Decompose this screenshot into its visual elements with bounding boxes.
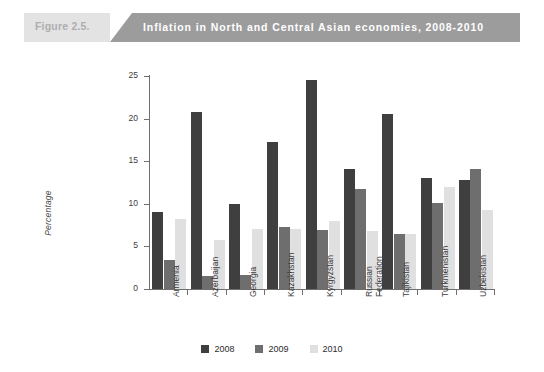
x-axis-category-label: Georgia	[249, 267, 259, 297]
y-axis-line	[149, 75, 150, 290]
legend-label: 2010	[323, 344, 343, 354]
y-axis-tick-label: 20	[100, 113, 138, 123]
legend-label: 2008	[214, 344, 234, 354]
x-axis-category-label: Azerbaijan	[211, 257, 221, 297]
y-axis-tick-label: 15	[100, 155, 138, 165]
y-axis-tick-label: 25	[100, 70, 138, 80]
x-axis-category-label: Turkmenistan	[441, 246, 451, 297]
legend-swatch-icon	[201, 345, 209, 353]
x-axis-tick	[456, 290, 457, 295]
legend-label: 2009	[268, 344, 288, 354]
legend-item[interactable]: 2009	[255, 344, 288, 354]
x-axis-tick	[302, 290, 303, 295]
chart-legend: 200820092010	[0, 344, 544, 354]
y-axis-tick	[144, 161, 149, 162]
x-axis-category-label: Uzbekistan	[479, 255, 489, 297]
x-axis-tick	[226, 290, 227, 295]
x-axis-tick	[341, 290, 342, 295]
y-axis-tick-label: 0	[100, 283, 138, 293]
figure-number-label: Figure 2.5.	[35, 20, 90, 32]
y-axis-tick	[144, 246, 149, 247]
bar	[421, 178, 432, 289]
bar	[306, 80, 317, 289]
y-axis-tick	[144, 289, 149, 290]
bar	[344, 169, 355, 289]
legend-item[interactable]: 2010	[310, 344, 343, 354]
y-axis-tick	[144, 119, 149, 120]
bar	[229, 204, 240, 289]
figure-title: Inflation in North and Central Asian eco…	[143, 21, 484, 33]
y-axis-tick	[144, 204, 149, 205]
x-axis-category-label: Russian Federation	[365, 256, 384, 297]
y-axis-title: Percentage	[43, 158, 53, 268]
legend-swatch-icon	[310, 345, 318, 353]
x-axis-category-label: Tajikistan	[402, 262, 412, 297]
bar	[152, 212, 163, 289]
legend-item[interactable]: 2008	[201, 344, 234, 354]
x-axis-tick	[417, 290, 418, 295]
x-axis-category-label: Kyrgyzstan	[326, 255, 336, 297]
bar	[459, 180, 470, 289]
y-axis-tick	[144, 76, 149, 77]
y-axis-tick-label: 5	[100, 240, 138, 250]
y-axis-tick-label: 10	[100, 198, 138, 208]
x-axis-tick	[494, 290, 495, 295]
bar	[191, 112, 202, 289]
figure-header-banner: Figure 2.5. Inflation in North and Centr…	[24, 13, 520, 42]
x-axis-tick	[187, 290, 188, 295]
x-axis-category-label: Kazakhstan	[287, 253, 297, 297]
x-axis-tick	[264, 290, 265, 295]
x-axis-category-label: Armenia	[172, 265, 182, 297]
legend-swatch-icon	[255, 345, 263, 353]
bar	[267, 142, 278, 289]
bar-chart: Percentage 0510152025 ArmeniaAzerbaijanG…	[0, 48, 544, 372]
